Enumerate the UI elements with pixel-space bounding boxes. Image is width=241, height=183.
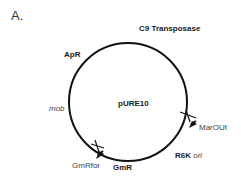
primer-gmrfor: GmRfor <box>72 162 100 170</box>
plasmid-circle-graphic <box>0 0 241 183</box>
feature-mob: mob <box>49 105 65 113</box>
feature-apr: ApR <box>64 51 80 59</box>
feature-gmr: GmR <box>113 164 132 172</box>
feature-c9-transposase: C9 Transposase <box>139 25 200 33</box>
feature-r6k-ori: R6K ori <box>175 152 202 160</box>
feature-r6k: R6K <box>175 151 191 160</box>
plasmid-name: pURE10 <box>118 100 149 108</box>
primer-marout: MarOUt <box>199 124 227 132</box>
feature-ori-suffix: ori <box>193 151 202 160</box>
